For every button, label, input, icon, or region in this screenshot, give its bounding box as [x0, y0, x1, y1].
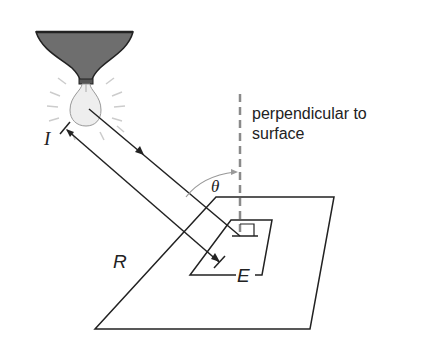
distance-dimension: [60, 122, 225, 268]
angle-label: θ: [211, 177, 219, 197]
illuminance-label: E: [236, 265, 251, 287]
perpendicular-label: perpendicular to surface: [252, 104, 421, 144]
light-bulb: [70, 84, 101, 126]
intensity-label: I: [44, 128, 50, 150]
right-angle-marker: [240, 224, 254, 236]
lamp-shade: [36, 32, 133, 84]
distance-label: R: [113, 251, 127, 273]
perpendicular-label-line2: surface: [252, 124, 421, 144]
surface-plane: [95, 197, 334, 329]
perpendicular-label-line1: perpendicular to: [252, 104, 421, 124]
